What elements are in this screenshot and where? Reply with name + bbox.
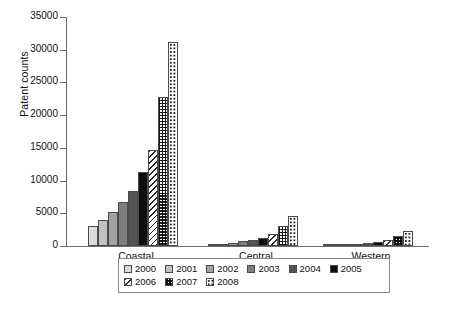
bar-group-coastal: Coastal — [88, 17, 184, 246]
legend-label-2006: 2006 — [135, 276, 156, 287]
bar-chart-figure: Patent counts 05000100001500020000250003… — [0, 0, 449, 309]
bar-western-2008 — [403, 231, 413, 246]
bar-central-2001 — [218, 244, 228, 246]
bar-western-2003 — [353, 244, 363, 246]
bar-western-2005 — [373, 242, 383, 246]
bar-western-2001 — [333, 244, 343, 246]
legend-item-2002[interactable]: 2002 — [206, 263, 238, 274]
y-tick-label: 10000 — [30, 174, 58, 185]
bar-western-2006 — [383, 240, 393, 246]
bar-coastal-2006 — [148, 150, 158, 246]
bar-group-western: Western — [323, 17, 419, 246]
y-tick-label: 20000 — [30, 108, 58, 119]
bar-coastal-2007 — [158, 97, 168, 246]
legend-swatch-2002 — [206, 265, 214, 273]
legend-item-2005[interactable]: 2005 — [330, 263, 362, 274]
bars — [208, 17, 298, 246]
legend-swatch-2007 — [165, 278, 173, 286]
bar-central-2003 — [238, 241, 248, 246]
bar-coastal-2004 — [128, 191, 138, 246]
bar-central-2002 — [228, 243, 238, 246]
bar-central-2006 — [268, 234, 278, 246]
legend-label-2007: 2007 — [176, 276, 197, 287]
legend-item-2000[interactable]: 2000 — [124, 263, 156, 274]
legend-item-2008[interactable]: 2008 — [206, 276, 238, 287]
y-tick-mark — [60, 17, 66, 18]
bar-central-2005 — [258, 238, 268, 247]
bar-coastal-2005 — [138, 172, 148, 246]
legend-swatch-2008 — [206, 278, 214, 286]
bar-group-central: Central — [208, 17, 304, 246]
legend-swatch-2003 — [247, 265, 255, 273]
legend-label-2004: 2004 — [300, 263, 321, 274]
legend-swatch-2001 — [165, 265, 173, 273]
legend-label-2003: 2003 — [258, 263, 279, 274]
y-tick-label: 0 — [52, 239, 58, 250]
legend-label-2002: 2002 — [217, 263, 238, 274]
y-tick-mark — [60, 181, 66, 182]
bar-central-2008 — [288, 216, 298, 246]
legend-item-2004[interactable]: 2004 — [289, 263, 321, 274]
y-tick-label: 5000 — [36, 206, 58, 217]
legend-row: 200620072008 — [124, 275, 385, 288]
bar-western-2002 — [343, 244, 353, 246]
bar-central-2007 — [278, 226, 288, 246]
bar-western-2000 — [323, 244, 333, 246]
y-tick-mark — [60, 213, 66, 214]
y-tick-label: 35000 — [30, 10, 58, 21]
legend-row: 200020012002200320042005 — [124, 262, 385, 275]
bar-coastal-2002 — [108, 212, 118, 246]
legend-swatch-2004 — [289, 265, 297, 273]
legend-label-2005: 2005 — [341, 263, 362, 274]
bars — [323, 17, 413, 246]
legend-swatch-2006 — [124, 278, 132, 286]
legend-item-2001[interactable]: 2001 — [165, 263, 197, 274]
bar-coastal-2008 — [168, 42, 178, 246]
legend-item-2006[interactable]: 2006 — [124, 276, 156, 287]
y-tick-mark — [60, 82, 66, 83]
legend-label-2008: 2008 — [217, 276, 238, 287]
bar-coastal-2001 — [98, 220, 108, 246]
y-tick-mark — [60, 50, 66, 51]
bar-coastal-2003 — [118, 202, 128, 246]
y-axis-line — [66, 17, 67, 247]
legend-item-2007[interactable]: 2007 — [165, 276, 197, 287]
legend-label-2000: 2000 — [135, 263, 156, 274]
bar-western-2004 — [363, 243, 373, 246]
legend-swatch-2005 — [330, 265, 338, 273]
legend-item-2003[interactable]: 2003 — [247, 263, 279, 274]
bar-western-2007 — [393, 236, 403, 246]
legend-swatch-2000 — [124, 265, 132, 273]
plot-area: 05000100001500020000250003000035000 Coas… — [66, 17, 429, 246]
bar-coastal-2000 — [88, 226, 98, 246]
x-axis-line — [66, 246, 429, 247]
y-tick-label: 25000 — [30, 75, 58, 86]
bar-central-2004 — [248, 240, 258, 246]
y-axis-title: Patent counts — [18, 24, 30, 144]
legend-label-2001: 2001 — [176, 263, 197, 274]
bars — [88, 17, 178, 246]
y-tick-mark — [60, 115, 66, 116]
bar-central-2000 — [208, 244, 218, 246]
y-tick-label: 15000 — [30, 141, 58, 152]
y-tick-mark — [60, 148, 66, 149]
chart-legend: 200020012002200320042005200620072008 — [118, 258, 390, 293]
y-tick-mark — [60, 246, 66, 247]
y-tick-label: 30000 — [30, 43, 58, 54]
